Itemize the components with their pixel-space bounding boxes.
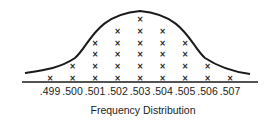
x-mark: × bbox=[69, 62, 76, 71]
x-tick-label: .505 bbox=[175, 85, 196, 97]
x-mark: × bbox=[92, 74, 99, 83]
x-tick-label: .500 bbox=[62, 85, 83, 97]
x-tick-label: .507 bbox=[220, 85, 241, 97]
x-mark: × bbox=[69, 74, 76, 83]
x-mark: × bbox=[227, 74, 234, 83]
x-tick-label: .499 bbox=[40, 85, 61, 97]
x-mark: × bbox=[92, 50, 99, 59]
frequency-distribution-chart: ×××××××××××××××××××××××××××××× .499.500.… bbox=[0, 0, 273, 126]
x-mark: × bbox=[159, 74, 166, 83]
x-mark: × bbox=[159, 27, 166, 36]
x-tick-label: .501 bbox=[85, 85, 106, 97]
x-mark: × bbox=[137, 74, 144, 83]
x-axis-tick-labels: .499.500.501.502.503.504.505.506.507 bbox=[40, 85, 241, 97]
x-mark: × bbox=[92, 39, 99, 48]
x-mark: × bbox=[182, 39, 189, 48]
x-mark: × bbox=[204, 74, 211, 83]
x-mark: × bbox=[182, 74, 189, 83]
x-mark: × bbox=[114, 62, 121, 71]
chart-title: Frequency Distribution bbox=[90, 104, 195, 116]
x-mark: × bbox=[114, 74, 121, 83]
x-mark: × bbox=[114, 50, 121, 59]
x-mark: × bbox=[114, 39, 121, 48]
x-mark: × bbox=[47, 74, 54, 83]
x-tick-label: .503 bbox=[130, 85, 151, 97]
x-tick-label: .502 bbox=[107, 85, 128, 97]
x-mark: × bbox=[159, 39, 166, 48]
x-mark: × bbox=[92, 62, 99, 71]
x-mark: × bbox=[182, 50, 189, 59]
x-mark: × bbox=[204, 62, 211, 71]
x-tick-label: .506 bbox=[197, 85, 218, 97]
x-mark: × bbox=[137, 50, 144, 59]
x-mark: × bbox=[137, 39, 144, 48]
x-mark: × bbox=[159, 62, 166, 71]
x-tick-label: .504 bbox=[152, 85, 173, 97]
x-mark: × bbox=[114, 27, 121, 36]
data-marks: ×××××××××××××××××××××××××××××× bbox=[47, 15, 234, 83]
x-mark: × bbox=[137, 15, 144, 24]
x-mark: × bbox=[137, 27, 144, 36]
x-mark: × bbox=[159, 50, 166, 59]
x-mark: × bbox=[137, 62, 144, 71]
x-mark: × bbox=[182, 62, 189, 71]
